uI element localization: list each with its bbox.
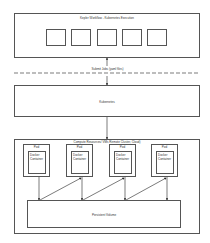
pod-label: Pod: [67, 145, 92, 149]
docker-container: Docker Container: [114, 151, 132, 174]
kubernetes-label: Kubernetes: [15, 100, 199, 104]
docker-container: Docker Container: [28, 151, 46, 174]
workflow-title: Kepler Workflow - Kubernetes Execution: [15, 16, 199, 20]
workflow-step: [71, 29, 91, 46]
container-label: Docker Container: [158, 153, 172, 161]
workflow-step: [97, 29, 117, 46]
container-label: Docker Container: [30, 153, 44, 161]
pod-label: Pod: [110, 145, 135, 149]
workflow-step: [122, 29, 142, 46]
container-label: Docker Container: [116, 153, 130, 161]
pod: Pod Docker Container: [109, 144, 136, 177]
pod: Pod Docker Container: [151, 144, 178, 177]
pod-label: Pod: [24, 145, 49, 149]
pod: Pod Docker Container: [66, 144, 93, 177]
persistent-volume: Persistent Volume: [27, 200, 181, 228]
docker-container: Docker Container: [71, 151, 89, 174]
pod: Pod Docker Container: [23, 144, 50, 177]
kubernetes-box: Kubernetes: [14, 85, 200, 117]
pod-label: Pod: [152, 145, 177, 149]
container-label: Docker Container: [73, 153, 87, 161]
volume-label: Persistent Volume: [28, 213, 180, 217]
docker-container: Docker Container: [156, 151, 174, 174]
submit-label: Submit Jobs (yaml files): [80, 67, 135, 71]
workflow-step: [147, 29, 167, 46]
workflow-step: [46, 29, 66, 46]
